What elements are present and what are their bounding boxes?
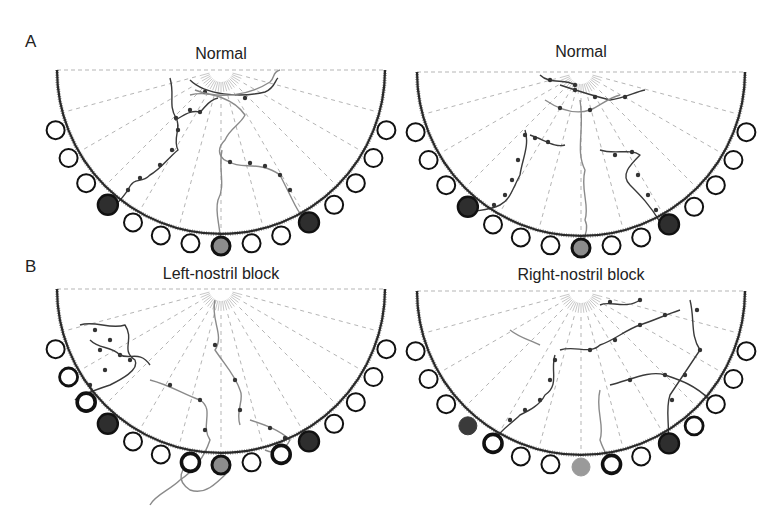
odor-port-plain <box>364 149 382 167</box>
odor-port-plain <box>152 445 170 463</box>
trajectory-point <box>176 128 180 132</box>
radial-dashed-line <box>81 302 199 370</box>
radial-dashed-line <box>425 298 556 333</box>
odor-port-dark <box>659 433 679 453</box>
odor-port-medium <box>685 417 703 435</box>
trajectory-point <box>168 383 172 387</box>
trajectory-trace <box>545 95 620 112</box>
odor-port-plain <box>272 226 290 244</box>
trajectory-point <box>170 148 174 152</box>
trajectory-point <box>103 368 107 372</box>
trajectory-point <box>573 83 577 87</box>
odor-port-plain <box>541 236 559 254</box>
figure-canvas <box>0 0 781 522</box>
radial-dashed-line <box>594 95 662 213</box>
trajectory-trace <box>510 330 540 345</box>
origin-hatch <box>223 82 224 92</box>
odor-port-dark <box>299 431 319 451</box>
radial-dashed-line <box>466 309 562 405</box>
odor-port-plain <box>724 151 742 169</box>
trajectory-point <box>243 96 247 100</box>
odor-port-plain <box>364 368 382 386</box>
odor-port-thick <box>272 445 290 463</box>
odor-port-dark <box>659 214 679 234</box>
odor-port-plain <box>47 121 65 139</box>
origin-hatch <box>223 301 224 311</box>
trajectory-point <box>238 408 242 412</box>
odor-port-gray_ringed <box>212 456 230 474</box>
odor-port-gray_plain <box>572 458 590 476</box>
radial-dashed-line <box>65 296 196 331</box>
radial-dashed-line <box>234 312 302 430</box>
radial-dashed-line <box>588 97 623 228</box>
trajectory-trace <box>600 300 640 305</box>
trajectory-point <box>608 300 612 304</box>
trajectory-point <box>638 298 642 302</box>
trajectory-point <box>278 173 282 177</box>
trajectory-point <box>546 140 550 144</box>
odor-port-thick <box>77 393 95 411</box>
trajectory-point <box>636 173 640 177</box>
trajectory-trace <box>560 310 680 350</box>
odor-port-dark_plain <box>459 417 477 435</box>
odor-port-plain <box>377 340 395 358</box>
odor-port-plain <box>603 236 621 254</box>
trajectory-point <box>108 338 112 342</box>
trajectory-point <box>670 398 674 402</box>
trajectory-point <box>248 161 252 165</box>
trajectory-point <box>638 323 642 327</box>
radial-dashed-line <box>599 309 695 405</box>
trajectory-point <box>263 164 267 168</box>
trajectory-point <box>228 160 232 164</box>
trajectory-point <box>268 426 272 430</box>
odor-port-plain <box>347 393 365 411</box>
trajectory-point <box>538 398 542 402</box>
odor-port-plain <box>484 215 502 233</box>
trajectory-point <box>158 163 162 167</box>
odor-port-plain <box>377 121 395 139</box>
trajectory-point <box>533 136 537 140</box>
odor-port-dark <box>98 195 118 215</box>
odor-port-plain <box>737 342 755 360</box>
trajectory-point <box>93 328 97 332</box>
trajectory-point <box>553 358 557 362</box>
trajectory-point <box>695 308 699 312</box>
radial-dashed-line <box>441 85 559 153</box>
radial-dashed-line <box>500 314 568 432</box>
trajectory-point <box>288 188 292 192</box>
radial-dashed-line <box>140 93 208 211</box>
radial-dashed-line <box>179 314 214 445</box>
trajectory-point <box>588 348 592 352</box>
trajectory-point <box>523 133 527 137</box>
trajectory-point <box>588 108 592 112</box>
radial-dashed-line <box>606 298 737 333</box>
radial-dashed-line <box>239 307 335 403</box>
trajectory-trace <box>75 324 136 400</box>
trajectory-point <box>203 428 207 432</box>
origin-hatch <box>583 303 584 313</box>
trajectory-point <box>508 418 512 422</box>
odor-port-plain <box>420 151 438 169</box>
odor-port-plain <box>347 174 365 192</box>
trajectory-point <box>613 338 617 342</box>
odor-port-thick <box>484 434 502 452</box>
trajectory-trace <box>110 78 178 205</box>
panel-title-b-right: Right-nostril block <box>517 266 644 284</box>
trajectory-point <box>593 95 597 99</box>
trajectory-point <box>654 208 658 212</box>
odor-port-plain <box>632 228 650 246</box>
odor-port-plain <box>407 342 425 360</box>
radial-dashed-line <box>140 312 208 430</box>
trajectory-point <box>623 95 627 99</box>
trajectory-point <box>213 343 217 347</box>
trajectory-trace <box>190 94 310 225</box>
trajectory-point <box>558 106 562 110</box>
odor-port-plain <box>512 228 530 246</box>
trajectory-point <box>510 178 514 182</box>
trajectory-point <box>233 378 237 382</box>
trajectory-point <box>663 373 667 377</box>
trajectory-point <box>548 378 552 382</box>
odor-port-plain <box>541 455 559 473</box>
radial-dashed-line <box>539 316 574 447</box>
odor-port-plain <box>47 340 65 358</box>
